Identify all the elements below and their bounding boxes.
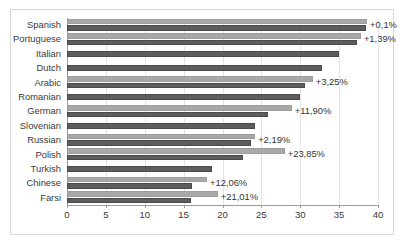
bar-lower xyxy=(67,112,268,118)
bar-row xyxy=(67,90,378,104)
bar-lower xyxy=(67,155,243,161)
x-axis-tick-label: 30 xyxy=(295,209,306,220)
bar-row: +11,90% xyxy=(67,104,378,118)
bar-single xyxy=(67,65,322,71)
x-axis-tick-labels: 0510152025303540 xyxy=(67,209,378,225)
bar-lower xyxy=(67,198,191,204)
bar-value-label: +3,25% xyxy=(316,75,348,89)
bar-upper xyxy=(67,177,207,183)
bar-row: +1,39% xyxy=(67,32,378,46)
bar-value-label: +21,01% xyxy=(221,190,258,204)
bar-upper xyxy=(67,191,218,197)
bar-single xyxy=(67,166,212,172)
bar-row xyxy=(67,119,378,133)
y-axis-label: Turkish xyxy=(11,162,65,176)
y-axis-label: Romanian xyxy=(11,90,65,104)
bar-upper xyxy=(67,19,367,25)
bar-value-label: +2,19% xyxy=(258,133,290,147)
x-axis-tick-mark xyxy=(184,205,185,208)
y-axis-label: Farsi xyxy=(11,191,65,205)
x-axis-tick-label: 10 xyxy=(139,209,150,220)
bar-lower xyxy=(67,25,366,31)
bar-value-label: +12,06% xyxy=(210,176,247,190)
bar-single xyxy=(67,51,339,57)
x-axis-tick-label: 20 xyxy=(217,209,228,220)
x-axis-tick-label: 40 xyxy=(373,209,384,220)
chart-container: SpanishPortugueseItalianDutchArabicRoman… xyxy=(10,9,394,235)
x-axis-tick-mark xyxy=(378,205,379,208)
y-axis-label: Russian xyxy=(11,133,65,147)
plot-area: +0,1%+1,39%+3,25%+11,90%+2,19%+23,85%+12… xyxy=(67,18,378,205)
bar-single xyxy=(67,123,255,129)
bar-row: +12,06% xyxy=(67,176,378,190)
x-axis-tick-mark xyxy=(300,205,301,208)
bar-upper xyxy=(67,76,313,82)
x-axis-tick-mark xyxy=(145,205,146,208)
y-axis-category-labels: SpanishPortugueseItalianDutchArabicRoman… xyxy=(11,18,65,205)
bar-lower xyxy=(67,83,305,89)
x-axis-tick-label: 35 xyxy=(334,209,345,220)
bar-value-label: +23,85% xyxy=(288,147,325,161)
bar-upper xyxy=(67,105,292,111)
bar-row xyxy=(67,61,378,75)
x-axis-tick-label: 5 xyxy=(103,209,108,220)
x-axis-tick-mark xyxy=(339,205,340,208)
bar-single xyxy=(67,94,300,100)
x-axis-tick-mark xyxy=(67,205,68,208)
bar-upper xyxy=(67,33,361,39)
y-axis-label: Dutch xyxy=(11,61,65,75)
y-axis-label: German xyxy=(11,104,65,118)
bar-row: +23,85% xyxy=(67,148,378,162)
y-axis-label: Arabic xyxy=(11,76,65,90)
y-axis-label: Italian xyxy=(11,47,65,61)
chart-plot-wrapper: SpanishPortugueseItalianDutchArabicRoman… xyxy=(11,10,393,234)
bar-lower xyxy=(67,183,192,189)
x-axis-tick-label: 0 xyxy=(64,209,69,220)
y-axis-label: Slovenian xyxy=(11,119,65,133)
x-axis-tick-mark xyxy=(106,205,107,208)
bar-row: +21,01% xyxy=(67,191,378,205)
bar-row: +2,19% xyxy=(67,133,378,147)
bar-upper xyxy=(67,148,285,154)
x-axis-tick-label: 25 xyxy=(256,209,267,220)
bar-rows: +0,1%+1,39%+3,25%+11,90%+2,19%+23,85%+12… xyxy=(67,18,378,205)
y-axis-label: Portuguese xyxy=(11,32,65,46)
y-axis-label: Spanish xyxy=(11,18,65,32)
x-axis-tick-mark xyxy=(223,205,224,208)
bar-value-label: +11,90% xyxy=(295,104,332,118)
y-axis-label: Chinese xyxy=(11,176,65,190)
x-axis-tick-label: 15 xyxy=(178,209,189,220)
bar-value-label: +0,1% xyxy=(370,18,397,32)
y-axis-label: Polish xyxy=(11,148,65,162)
bar-row xyxy=(67,47,378,61)
x-axis-tick-mark xyxy=(261,205,262,208)
bar-row: +0,1% xyxy=(67,18,378,32)
bar-lower xyxy=(67,40,357,46)
bar-row: +3,25% xyxy=(67,76,378,90)
bar-lower xyxy=(67,140,251,146)
bar-row xyxy=(67,162,378,176)
bar-upper xyxy=(67,134,255,140)
bar-value-label: +1,39% xyxy=(364,32,396,46)
